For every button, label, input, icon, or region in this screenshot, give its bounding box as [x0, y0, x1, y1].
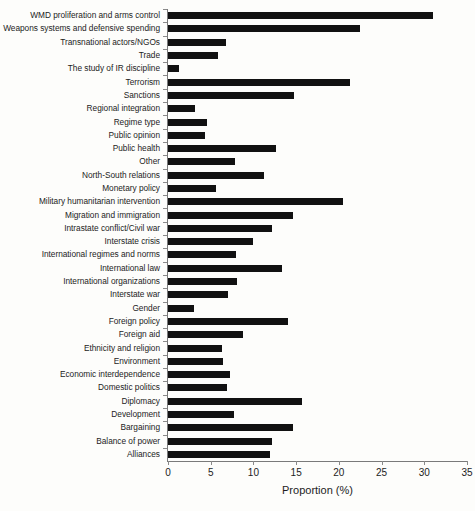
bar-row [168, 62, 467, 75]
y-axis-label-text: Regional integration [87, 104, 160, 113]
y-axis-tick [162, 435, 167, 448]
y-axis-label: Military humanitarian intervention [0, 195, 160, 208]
x-axis-tick [467, 461, 468, 465]
y-axis-label: Foreign policy [0, 315, 160, 328]
bar [168, 358, 223, 365]
bar-row [168, 355, 467, 368]
y-axis-label: Regime type [0, 115, 160, 128]
y-axis-tick [162, 408, 167, 421]
y-axis-label: Other [0, 155, 160, 168]
bar [168, 92, 294, 99]
bar-row [168, 381, 467, 394]
bar [168, 105, 195, 112]
y-axis-tick [162, 115, 167, 128]
bar [168, 291, 228, 298]
y-axis-tick [162, 49, 167, 62]
bar-row [168, 395, 467, 408]
x-axis-tick-label: 0 [165, 467, 171, 478]
x-axis-tick-label: 10 [248, 467, 259, 478]
x-axis-tick [339, 461, 340, 465]
bar [168, 331, 243, 338]
bar [168, 384, 227, 391]
y-axis-label-text: Foreign policy [109, 317, 160, 326]
bar-row [168, 222, 467, 235]
x-axis-tick-label: 20 [333, 467, 344, 478]
x-axis-tick [296, 461, 297, 465]
bar [168, 198, 343, 205]
y-axis-label: North-South relations [0, 169, 160, 182]
y-axis-tick [162, 288, 167, 301]
bar-row [168, 49, 467, 62]
y-axis-label: Sanctions [0, 89, 160, 102]
bar [168, 424, 293, 431]
y-axis-label: Bargaining [0, 421, 160, 434]
y-axis-label-text: Transnational actors/NGOs [60, 38, 160, 47]
bar [168, 145, 276, 152]
y-axis-tick [162, 169, 167, 182]
bar-series [168, 9, 467, 461]
bar-row [168, 328, 467, 341]
bar-row [168, 195, 467, 208]
bar-row [168, 288, 467, 301]
y-axis-label-text: Public opinion [109, 131, 160, 140]
bar-row [168, 169, 467, 182]
bar [168, 238, 253, 245]
y-axis-tick [162, 102, 167, 115]
y-axis-label-text: The study of IR discipline [68, 64, 160, 73]
y-axis-label: The study of IR discipline [0, 62, 160, 75]
bar-row [168, 102, 467, 115]
bar [168, 39, 226, 46]
y-axis-tick [162, 302, 167, 315]
y-axis-tick [162, 262, 167, 275]
bar-row [168, 262, 467, 275]
y-axis-label-text: Regime type [114, 118, 160, 127]
x-axis-tick [168, 461, 169, 465]
bar [168, 345, 222, 352]
bar [168, 132, 205, 139]
x-axis-tick-label: 5 [208, 467, 214, 478]
y-axis-tick [162, 22, 167, 35]
bar [168, 52, 218, 59]
bar [168, 318, 288, 325]
bar [168, 278, 237, 285]
y-axis-label: Intrastate conflict/Civil war [0, 222, 160, 235]
bar [168, 398, 302, 405]
bar [168, 225, 272, 232]
y-axis-tick [162, 315, 167, 328]
bar-row [168, 208, 467, 221]
x-axis-ticks [168, 461, 467, 466]
y-axis-tick [162, 448, 167, 461]
y-axis-label-text: Foreign aid [119, 330, 160, 339]
y-axis-label: Interstate crisis [0, 235, 160, 248]
y-axis-tick [162, 129, 167, 142]
bar-row [168, 368, 467, 381]
y-axis-label: Trade [0, 49, 160, 62]
y-axis-tick [162, 182, 167, 195]
bar-row [168, 408, 467, 421]
bar [168, 65, 179, 72]
y-axis-label-text: North-South relations [82, 171, 160, 180]
y-axis-label-text: Domestic politics [98, 383, 160, 392]
bar-row [168, 142, 467, 155]
y-axis-label-text: Military humanitarian intervention [39, 197, 160, 206]
y-axis-label: WMD proliferation and arms control [0, 9, 160, 22]
y-axis-tick [162, 89, 167, 102]
bar-row [168, 248, 467, 261]
y-axis-tick [162, 208, 167, 221]
bar-row [168, 182, 467, 195]
bar-row [168, 155, 467, 168]
y-axis-label-text: Interstate crisis [105, 237, 160, 246]
bar-row [168, 448, 467, 461]
y-axis-label-text: Terrorism [126, 78, 160, 87]
y-axis-tick [162, 368, 167, 381]
bar [168, 172, 264, 179]
y-axis-tick [162, 9, 167, 22]
y-axis-tick [162, 155, 167, 168]
bar [168, 251, 236, 258]
y-axis-label: International regimes and norms [0, 248, 160, 261]
bar-row [168, 89, 467, 102]
y-axis-label: Interstate war [0, 288, 160, 301]
y-axis-label: Monetary policy [0, 182, 160, 195]
y-axis-label: Foreign aid [0, 328, 160, 341]
bar [168, 265, 282, 272]
